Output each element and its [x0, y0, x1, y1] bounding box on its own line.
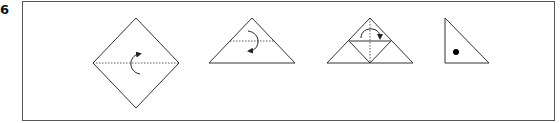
dot-marker [453, 49, 459, 55]
figure-triangle-fold [209, 18, 295, 63]
fold-arrow-icon [131, 54, 140, 74]
origami-diagram [0, 0, 560, 123]
figure-triangle-inner [327, 18, 413, 63]
diagram-frame [23, 2, 555, 121]
figure-diamond [93, 18, 179, 108]
figure-right-triangle [445, 18, 489, 63]
fold-arrow-icon [361, 29, 380, 38]
